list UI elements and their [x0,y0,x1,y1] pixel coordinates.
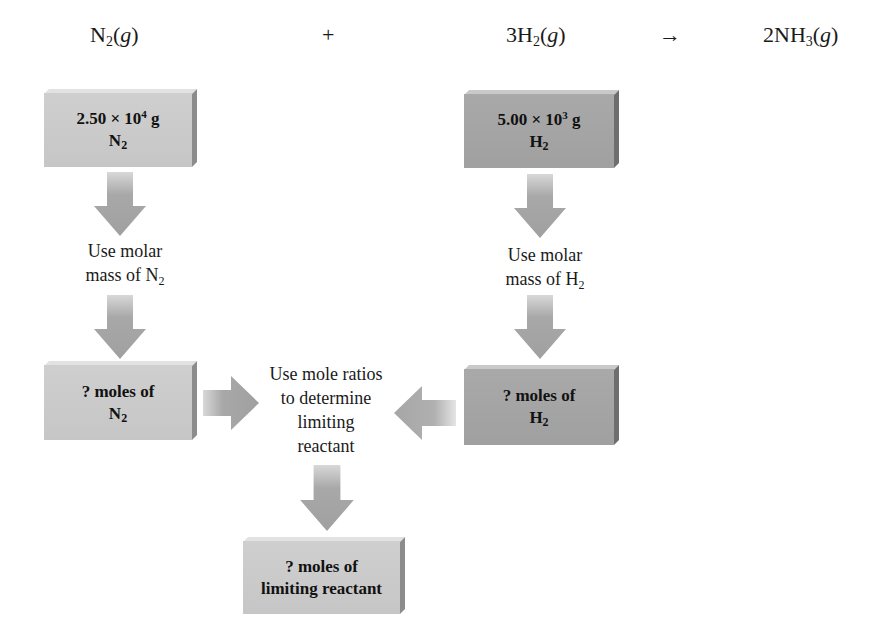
h2-mass-value: 5.00 × 10 [497,110,562,129]
h2-subscript: 2 [533,34,540,49]
limiting-line1: ? moles of [243,556,400,578]
n2-mass-unit: g [147,109,160,128]
n2-mass-box: 2.50 × 104 g N2 [44,89,197,167]
right-arrow-icon [203,376,259,430]
n2-molar-line1: Use molar [60,239,190,263]
nh3-state: g [820,22,831,47]
n2-mass-species: N [109,131,121,150]
n2-moles-species: N [109,404,121,423]
h2-moles-box: ? moles of H2 [464,365,619,445]
h2-molar-mass-step: Use molar mass of H2 [480,243,610,291]
h2-moles-species: H [529,408,542,427]
limiting-reactant-box: ? moles of limiting reactant [243,537,405,614]
h2-moles-species-sub: 2 [543,415,549,429]
n2-mass-species-sub: 2 [121,138,127,152]
n2-symbol: N [90,22,106,47]
down-arrow-icon [94,172,146,236]
equation-plus: + [322,22,334,48]
mole-ratio-line4: reactant [258,434,394,458]
down-arrow-icon [94,295,146,359]
n2-moles-box: ? moles of N2 [44,361,197,440]
limiting-line2: limiting reactant [243,578,400,600]
h2-molar-line1: Use molar [480,243,610,267]
nh3-subscript: 3 [806,34,813,49]
equation-product-nh3: 2NH3(g) [763,22,838,48]
n2-state: g [120,22,131,47]
h2-mass-species-sub: 2 [543,139,549,153]
n2-subscript: 2 [106,34,113,49]
n2-mass-value: 2.50 × 10 [76,109,141,128]
h2-state: g [547,22,558,47]
h2-symbol: H [517,22,533,47]
nh3-coefficient: 2 [763,22,774,47]
h2-mass-box: 5.00 × 103 g H2 [464,90,619,168]
n2-moles-species-sub: 2 [121,411,127,425]
h2-molar-line2: mass of H [506,269,579,289]
mole-ratio-line3: limiting [258,410,394,434]
h2-molar-sub: 2 [579,278,585,292]
equation-reactant-h2: 3H2(g) [506,22,566,48]
down-arrow-icon [300,465,354,531]
h2-mass-species: H [529,132,542,151]
mole-ratio-line1: Use mole ratios [258,362,394,386]
n2-moles-line1: ? moles of [44,381,192,403]
h2-mass-unit: g [568,110,581,129]
down-arrow-icon [514,174,566,238]
mole-ratio-line2: to determine [258,386,394,410]
left-arrow-icon [394,386,456,440]
n2-molar-sub: 2 [159,274,165,288]
equation-arrow: → [659,22,681,48]
mole-ratio-step: Use mole ratios to determine limiting re… [258,362,394,458]
n2-molar-mass-step: Use molar mass of N2 [60,239,190,287]
equation-reactant-n2: N2(g) [90,22,139,48]
down-arrow-icon [514,295,566,359]
h2-moles-line1: ? moles of [464,385,614,407]
h2-coefficient: 3 [506,22,517,47]
nh3-symbol: NH [774,22,806,47]
n2-molar-line2: mass of N [86,265,159,285]
